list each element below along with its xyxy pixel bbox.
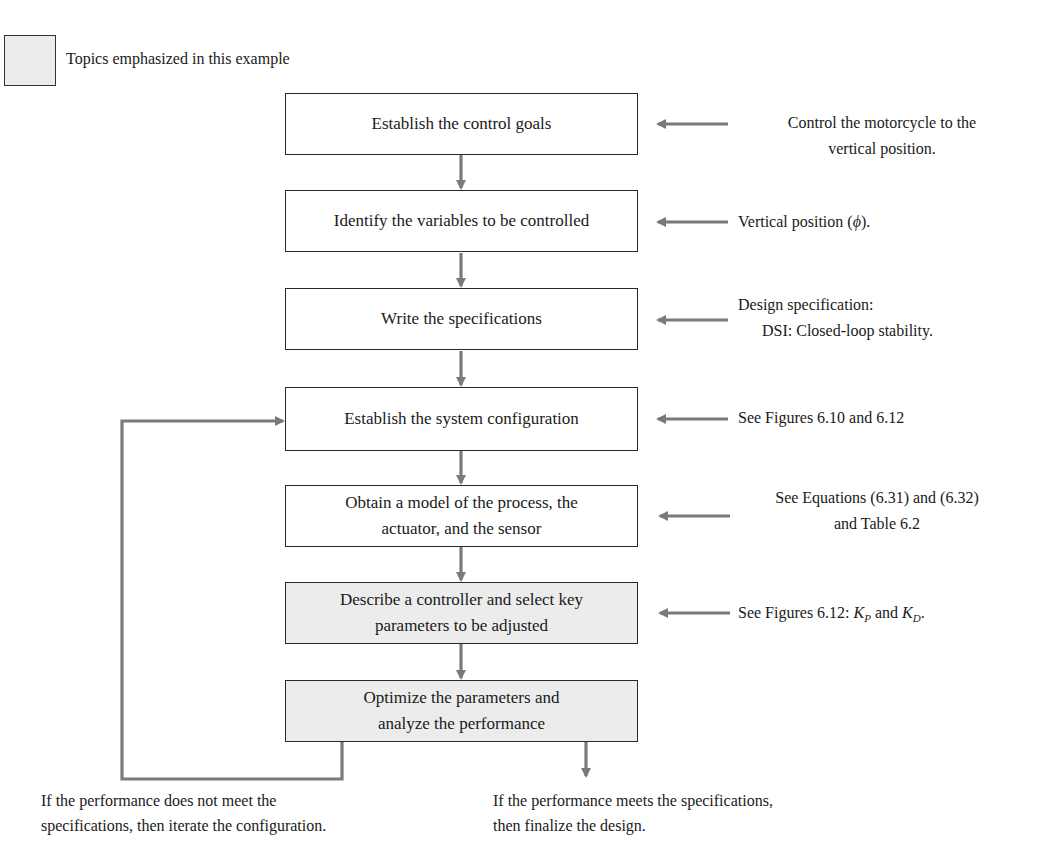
step-label: Optimize the parameters and analyze the …: [364, 685, 560, 737]
step-identify-variables: Identify the variables to be controlled: [285, 190, 638, 252]
outcome-iterate: If the performance does not meet the spe…: [41, 788, 326, 838]
kd-subscript: D: [913, 612, 921, 624]
step-label-line2: parameters to be adjusted: [375, 616, 548, 635]
kp-symbol: K: [854, 604, 865, 621]
outcome-line1: If the performance does not meet the: [41, 792, 276, 809]
annotation-line1: See Figures 6.10 and 6.12: [738, 409, 904, 426]
annotation-text: .: [921, 604, 925, 621]
legend-label: Topics emphasized in this example: [66, 50, 290, 68]
step-establish-system-configuration: Establish the system configuration: [285, 387, 638, 451]
step-label-line1: Obtain a model of the process, the: [345, 493, 578, 512]
annotation-line1: Control the motorcycle to the: [788, 114, 976, 131]
annotation-line2: DSI: Closed-loop stability.: [738, 318, 933, 344]
step-label-line2: actuator, and the sensor: [382, 519, 542, 538]
step-describe-controller: Describe a controller and select key par…: [285, 582, 638, 644]
outcome-line2: specifications, then iterate the configu…: [41, 817, 326, 834]
kp-subscript: P: [864, 612, 871, 624]
outcome-line1: If the performance meets the specificati…: [493, 792, 773, 809]
annotation-control-goals: Control the motorcycle to the vertical p…: [736, 110, 1028, 162]
annotation-controller: See Figures 6.12: KP and KD.: [738, 600, 925, 631]
annotation-line2: and Table 6.2: [834, 515, 920, 532]
annotation-variables: Vertical position (ϕ).: [738, 209, 870, 235]
step-write-specifications: Write the specifications: [285, 288, 638, 350]
step-label: Establish the system configuration: [344, 406, 579, 432]
step-label: Obtain a model of the process, the actua…: [345, 490, 578, 542]
step-label-line1: Optimize the parameters and: [364, 688, 560, 707]
step-label: Identify the variables to be controlled: [334, 208, 589, 234]
annotation-text: and: [871, 604, 902, 621]
annotation-line2: vertical position.: [828, 140, 936, 157]
step-label: Establish the control goals: [372, 111, 552, 137]
outcome-finalize: If the performance meets the specificati…: [493, 788, 773, 838]
step-label-line1: Describe a controller and select key: [340, 590, 583, 609]
annotation-line1: See Equations (6.31) and (6.32): [775, 489, 979, 506]
phi-symbol: ϕ: [853, 213, 861, 230]
legend-swatch: [4, 35, 56, 86]
annotation-text: See Figures 6.12:: [738, 604, 854, 621]
step-optimize-parameters: Optimize the parameters and analyze the …: [285, 680, 638, 742]
kd-symbol: K: [902, 604, 913, 621]
annotation-model: See Equations (6.31) and (6.32) and Tabl…: [738, 485, 1016, 537]
annotation-system-configuration: See Figures 6.10 and 6.12: [738, 405, 904, 431]
annotation-specifications: Design specification: DSI: Closed-loop s…: [738, 292, 933, 344]
step-label-line2: analyze the performance: [378, 714, 545, 733]
annotation-text: ).: [861, 213, 870, 230]
annotation-text: Vertical position (: [738, 213, 853, 230]
step-obtain-model: Obtain a model of the process, the actua…: [285, 485, 638, 547]
step-label: Write the specifications: [381, 306, 542, 332]
step-establish-control-goals: Establish the control goals: [285, 93, 638, 155]
annotation-line1: Design specification:: [738, 296, 874, 313]
outcome-line2: then finalize the design.: [493, 817, 646, 834]
step-label: Describe a controller and select key par…: [340, 587, 583, 639]
